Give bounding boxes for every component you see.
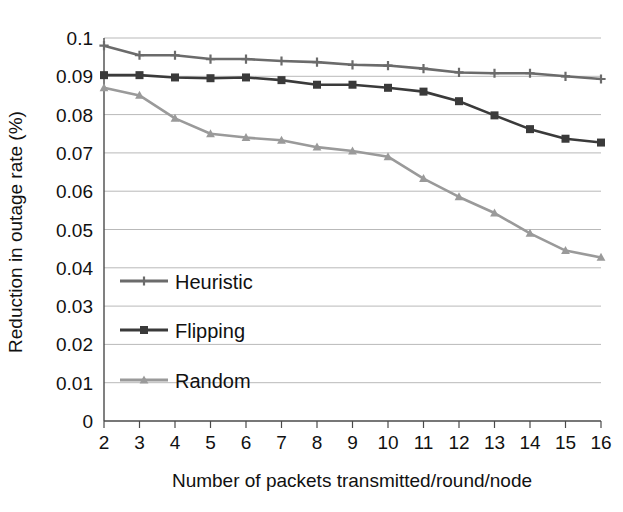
- x-axis-tick-labels: 2345678910111213141516: [99, 432, 612, 453]
- x-tick-label: 3: [134, 432, 145, 453]
- x-tick-label: 4: [170, 432, 181, 453]
- data-point-marker: [140, 326, 148, 334]
- data-point-marker: [597, 139, 605, 147]
- x-tick-label: 12: [448, 432, 469, 453]
- data-point-marker: [349, 81, 357, 89]
- y-tick-label: 0.06: [56, 181, 93, 202]
- legend-label: Flipping: [175, 320, 245, 342]
- chart-page: 00.010.020.030.040.050.060.070.080.090.1…: [0, 0, 623, 512]
- y-tick-label: 0.1: [67, 28, 93, 49]
- y-tick-label: 0.04: [56, 258, 93, 279]
- data-point-marker: [562, 135, 570, 143]
- data-point-marker: [207, 74, 215, 82]
- data-point-marker: [491, 111, 499, 119]
- data-point-marker: [526, 125, 534, 133]
- data-point-marker: [384, 84, 392, 92]
- y-tick-label: 0.05: [56, 220, 93, 241]
- data-point-marker: [420, 88, 428, 96]
- data-point-marker: [171, 73, 179, 81]
- x-tick-label: 2: [99, 432, 110, 453]
- x-axis-title: Number of packets transmitted/round/node: [172, 470, 532, 491]
- y-tick-label: 0: [82, 411, 93, 432]
- x-tick-label: 10: [377, 432, 398, 453]
- y-tick-label: 0.02: [56, 334, 93, 355]
- data-point-marker: [278, 76, 286, 84]
- x-tick-label: 11: [414, 432, 434, 453]
- data-point-marker: [100, 71, 108, 79]
- legend-label: Random: [175, 370, 251, 392]
- y-axis-title: Reduction in outage rate (%): [5, 111, 26, 353]
- data-point-marker: [242, 73, 250, 81]
- y-tick-label: 0.03: [56, 296, 93, 317]
- y-tick-label: 0.08: [56, 105, 93, 126]
- x-tick-label: 15: [555, 432, 576, 453]
- x-tick-label: 13: [484, 432, 505, 453]
- y-tick-label: 0.01: [56, 373, 93, 394]
- x-tick-label: 5: [205, 432, 216, 453]
- data-point-marker: [136, 71, 144, 79]
- x-tick-label: 8: [312, 432, 323, 453]
- legend-label: Heuristic: [175, 271, 253, 293]
- x-tick-label: 14: [519, 432, 541, 453]
- data-point-marker: [313, 81, 321, 89]
- y-tick-label: 0.09: [56, 66, 93, 87]
- line-chart: 00.010.020.030.040.050.060.070.080.090.1…: [0, 0, 623, 512]
- x-tick-label: 9: [347, 432, 358, 453]
- x-tick-label: 6: [241, 432, 252, 453]
- x-tick-label: 7: [276, 432, 287, 453]
- data-point-marker: [455, 97, 463, 105]
- x-tick-label: 16: [590, 432, 611, 453]
- y-tick-label: 0.07: [56, 143, 93, 164]
